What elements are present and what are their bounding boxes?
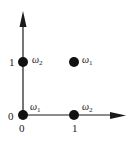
class-label-0-1: ω2 (32, 54, 43, 67)
x-axis-arrow-icon (110, 112, 126, 119)
class-label-0-0: ω1 (30, 101, 41, 114)
xor-diagram: 0 1 0 1 ω1 ω2 ω2 ω1 (0, 0, 133, 141)
y-tick-label-1: 1 (9, 56, 15, 68)
x-tick-label-0: 0 (19, 122, 25, 134)
class-label-1-1: ω1 (82, 54, 93, 67)
y-axis-arrow-icon (20, 11, 27, 27)
class-label-1-0: ω2 (82, 101, 93, 114)
y-tick-label-0: 0 (8, 110, 14, 122)
point-0-1 (18, 57, 28, 67)
point-1-1 (69, 57, 79, 67)
x-tick-label-1: 1 (72, 122, 78, 134)
point-0-0 (18, 110, 28, 120)
point-1-0 (69, 110, 79, 120)
